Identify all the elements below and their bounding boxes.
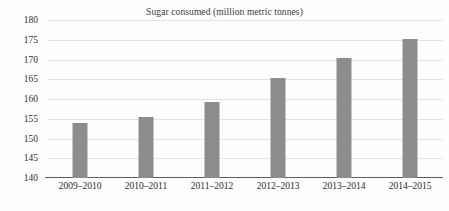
y-axis-tick-label: 150: [0, 134, 38, 144]
bar-chart: Sugar consumed (million metric tonnes) 1…: [0, 0, 449, 211]
gridline: [47, 79, 443, 80]
bar: [73, 123, 88, 178]
gridline: [47, 20, 443, 21]
gridline: [47, 40, 443, 41]
x-axis: 2009–20102010–20112011–20122012–20132013…: [47, 181, 443, 197]
plot-area: [47, 20, 443, 178]
y-axis-tick-label: 165: [0, 74, 38, 84]
gridline: [47, 99, 443, 100]
y-axis-tick-label: 175: [0, 35, 38, 45]
gridline: [47, 60, 443, 61]
y-axis-tick-label: 160: [0, 94, 38, 104]
x-axis-tick-label: 2014–2015: [370, 181, 449, 191]
bar: [403, 39, 418, 178]
y-axis-tick-label: 170: [0, 55, 38, 65]
bar: [337, 58, 352, 178]
y-axis-tick-label: 180: [0, 15, 38, 25]
gridline: [47, 139, 443, 140]
y-axis-tick-label: 145: [0, 153, 38, 163]
chart-title: Sugar consumed (million metric tonnes): [0, 7, 449, 17]
y-axis-tick-label: 140: [0, 173, 38, 183]
x-axis-line: [45, 177, 443, 178]
gridline: [47, 158, 443, 159]
y-axis-tick-label: 155: [0, 114, 38, 124]
bar: [205, 102, 220, 178]
gridline: [47, 119, 443, 120]
bar: [139, 117, 154, 178]
bar: [271, 78, 286, 178]
